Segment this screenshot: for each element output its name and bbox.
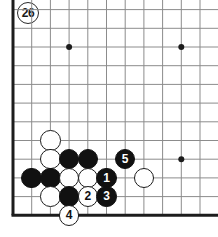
move-5-stone-label: 5 — [122, 153, 129, 165]
move-2-stone: 2 — [78, 186, 99, 207]
go-diagram-figure: 26 51234 — [0, 0, 218, 237]
move-1-stone: 1 — [96, 168, 117, 189]
white-stone-a — [40, 130, 61, 151]
move-1-stone-label: 1 — [103, 172, 110, 184]
move-2-stone-label: 2 — [84, 190, 91, 202]
star-point — [178, 44, 184, 50]
move-4-stone: 4 — [59, 205, 80, 226]
star-point — [66, 44, 72, 50]
move-3-stone: 3 — [96, 186, 117, 207]
move-4-stone-label: 4 — [66, 209, 73, 221]
black-stone-c — [21, 168, 42, 189]
white-stone-f — [40, 186, 61, 207]
white-stone-b — [40, 149, 61, 170]
white-stone-d — [78, 168, 99, 189]
black-stone-d — [40, 168, 61, 189]
move-3-stone-label: 3 — [103, 190, 110, 202]
star-point — [178, 156, 184, 162]
black-stone-e — [59, 186, 80, 207]
